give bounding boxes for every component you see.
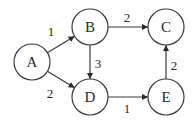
edge-weight-label: 2 — [171, 58, 178, 73]
arrow-icon — [47, 36, 74, 52]
node-label: D — [85, 89, 96, 105]
edge-d-to-e: 1 — [108, 97, 148, 116]
edge-b-to-d: 3 — [90, 45, 101, 79]
weighted-directed-graph: 122312 ABCDE — [0, 0, 195, 127]
edge-weight-label: 3 — [95, 56, 102, 71]
edge-a-to-b: 1 — [47, 24, 74, 53]
node-label: C — [161, 19, 171, 35]
node-d: D — [72, 79, 108, 115]
edge-weight-label: 1 — [48, 24, 55, 39]
node-label: B — [85, 19, 95, 35]
edge-a-to-d: 2 — [47, 71, 75, 100]
edge-e-to-c: 2 — [166, 45, 177, 79]
node-c: C — [148, 9, 184, 45]
node-label: E — [161, 89, 170, 105]
edge-weight-label: 1 — [124, 101, 131, 116]
edge-weight-label: 2 — [47, 86, 54, 101]
edge-weight-label: 2 — [124, 10, 131, 25]
node-a: A — [14, 44, 50, 80]
node-b: B — [72, 9, 108, 45]
edge-b-to-c: 2 — [108, 10, 148, 28]
node-label: A — [27, 54, 38, 70]
node-e: E — [148, 79, 184, 115]
